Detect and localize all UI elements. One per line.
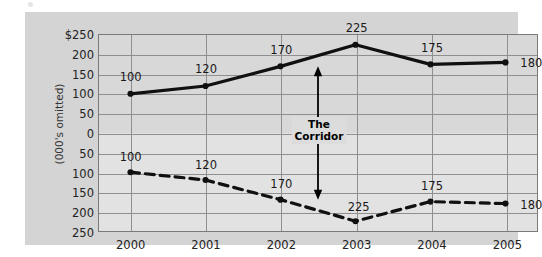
x-axis-tick-label: 2005: [493, 238, 522, 252]
x-axis-tick-label: 2004: [417, 238, 446, 252]
y-axis-tick-label: 150: [72, 186, 94, 200]
y-axis-tick-label: 250: [72, 226, 94, 240]
y-axis-tick-label: 150: [72, 68, 94, 82]
plot-band-lower: [99, 133, 537, 231]
gridline-horizontal: [99, 114, 537, 115]
gridline-horizontal: [99, 75, 537, 76]
gridline-horizontal: [99, 94, 537, 95]
x-axis-tick-label: 2002: [267, 238, 296, 252]
gridline-horizontal: [99, 55, 537, 56]
point-label-upper: 175: [421, 41, 443, 55]
gridline-vertical: [281, 35, 282, 231]
point-label-upper: 170: [270, 43, 292, 57]
y-axis-tick-label: 200: [72, 206, 94, 220]
corridor-label-line2: Corridor: [295, 130, 344, 142]
scan-artifact-speck: [28, 2, 33, 7]
y-axis-tick-label: 200: [72, 48, 94, 62]
x-axis-tick-label: 2000: [116, 238, 145, 252]
point-label-lower: 180: [520, 198, 542, 212]
chart-card: (000's omitted) $25020015010050050100150…: [25, 12, 518, 245]
point-label-lower: 120: [195, 158, 217, 172]
point-label-upper: 225: [346, 21, 368, 35]
x-axis-tick-label: 2003: [342, 238, 371, 252]
gridline-vertical: [507, 35, 508, 231]
point-label-lower: 170: [270, 177, 292, 191]
gridline-horizontal: [99, 154, 537, 155]
y-axis-tick-label: 0: [87, 127, 94, 141]
y-axis-tick-label: 100: [72, 87, 94, 101]
point-label-lower: 100: [120, 150, 142, 164]
gridline-horizontal: [99, 174, 537, 175]
y-axis-tick-label: 50: [79, 147, 94, 161]
point-label-lower: 225: [348, 200, 370, 214]
point-label-upper: 180: [520, 56, 542, 70]
point-label-lower: 175: [421, 179, 443, 193]
gridline-horizontal: [99, 193, 537, 194]
x-axis-tick-label: 2001: [191, 238, 220, 252]
gridline-horizontal: [99, 213, 537, 214]
y-axis-title: (000's omitted): [53, 64, 65, 184]
gridline-vertical: [432, 35, 433, 231]
corridor-annotation-label: TheCorridor: [292, 117, 347, 144]
y-axis-tick-label: $250: [65, 28, 94, 42]
y-axis-tick-label: 50: [79, 107, 94, 121]
gridline-vertical: [131, 35, 132, 231]
y-axis-tick-label: 100: [72, 167, 94, 181]
point-label-upper: 100: [120, 70, 142, 84]
corridor-label-line1: The: [295, 118, 344, 130]
point-label-upper: 120: [195, 62, 217, 76]
plot-area: $25020015010050050100150200250 200020012…: [98, 34, 538, 232]
